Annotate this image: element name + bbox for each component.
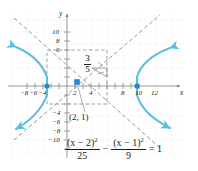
x-axis-label: x — [180, 89, 183, 97]
vertex-right — [134, 83, 139, 88]
first-numerator-exponent: 2 — [94, 136, 97, 143]
vertex-left — [44, 83, 49, 88]
second-denominator: 9 — [111, 149, 146, 162]
slope-fraction: 3 5 — [84, 54, 91, 74]
fundamental-rectangle — [47, 50, 107, 104]
center-point-marker — [74, 79, 80, 85]
x-tick-label-minus4: −4 — [38, 90, 46, 97]
second-numerator: (x − 1)2 — [111, 136, 146, 149]
left-branch — [16, 47, 47, 129]
x-tick-label-12: 12 — [151, 90, 158, 97]
slope-triangle — [92, 68, 107, 77]
y-tick-label-8: 8 — [56, 38, 60, 45]
y-tick-label-minus8: −8 — [52, 128, 60, 135]
hyperbola-figure: x y −8 −6 −4 2 4 8 10 12 10 8 6 −4 −6 −8… — [0, 0, 198, 171]
y-tick-label-6: 6 — [56, 47, 60, 54]
first-numerator-base: (x − 2) — [67, 137, 94, 148]
x-tick-label-2: 2 — [73, 90, 77, 97]
slope-denominator: 5 — [84, 65, 91, 74]
hyperbola-equation: (x − 2)2 25 − (x − 1)2 9 = 1 — [64, 136, 164, 161]
y-axis-label: y — [59, 10, 62, 18]
y-tick-label-minus10: −10 — [48, 137, 60, 144]
center-leader-line — [78, 87, 85, 112]
x-tick-label-4: 4 — [89, 90, 93, 97]
slope-numerator: 3 — [84, 54, 91, 63]
x-tick-label-8: 8 — [121, 90, 125, 97]
first-fraction: (x − 2)2 25 — [65, 136, 100, 161]
x-tick-label-10: 10 — [135, 90, 142, 97]
first-denominator: 25 — [65, 149, 100, 162]
equation-equals: = 1 — [149, 143, 162, 154]
asymptote-negative-slope — [14, 18, 160, 148]
second-numerator-base: (x − 1) — [113, 137, 140, 148]
x-tick-label-minus8: −8 — [20, 90, 28, 97]
x-tick-label-minus6: −6 — [29, 90, 37, 97]
first-numerator: (x − 2)2 — [65, 136, 100, 149]
second-numerator-exponent: 2 — [141, 136, 144, 143]
center-point-label: (2, 1) — [69, 113, 89, 122]
y-tick-label-minus4: −4 — [52, 110, 60, 117]
y-tick-label-minus6: −6 — [52, 119, 60, 126]
equation-operator: − — [103, 143, 109, 154]
y-tick-label-10: 10 — [52, 29, 59, 36]
second-fraction: (x − 1)2 9 — [111, 136, 146, 161]
